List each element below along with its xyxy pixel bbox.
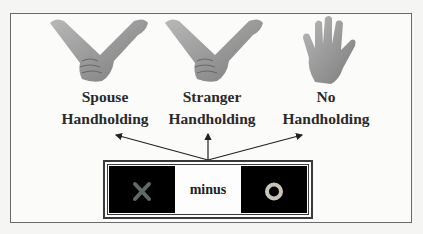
o-stimulus-panel <box>241 166 307 213</box>
stimulus-box: minus <box>103 160 313 219</box>
x-icon <box>109 166 175 217</box>
circle-icon <box>241 166 307 217</box>
minus-label: minus <box>174 165 242 214</box>
arrow-to-none <box>208 135 302 160</box>
x-stimulus-panel <box>109 166 175 213</box>
arrow-to-spouse <box>116 135 208 160</box>
stimulus-inner: minus <box>107 164 309 215</box>
